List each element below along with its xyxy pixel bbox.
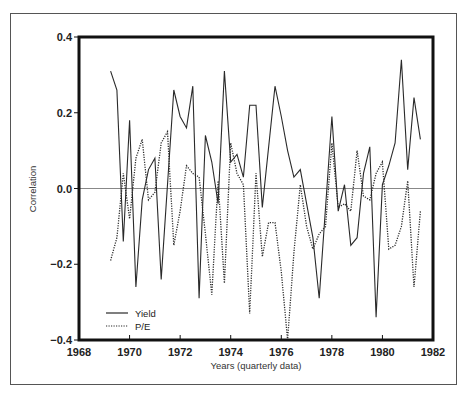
legend-label-pe: P/E (135, 321, 150, 332)
y-axis-title: Correlation (27, 166, 38, 212)
y-tick-label: 0.0 (57, 183, 72, 195)
x-tick-label: 1976 (269, 346, 293, 358)
x-tick-label: 1968 (67, 346, 91, 358)
y-tick-label: 0.4 (57, 31, 73, 43)
y-tick-label: 0.2 (57, 107, 72, 119)
legend-label-yield: Yield (135, 308, 156, 319)
x-tick-label: 1970 (117, 346, 141, 358)
correlation-line-chart: 0.40.20.0−0.2−0.4 1968197019721974197619… (0, 0, 470, 406)
legend: Yield P/E (106, 308, 156, 332)
x-axis-title: Years (quarterly data) (210, 360, 301, 371)
y-tick-label: −0.4 (50, 334, 73, 346)
x-axis-ticks: 19681970197219741976197819801982 (67, 335, 445, 358)
x-tick-label: 1972 (168, 346, 192, 358)
y-axis-ticks: 0.40.20.0−0.2−0.4 (50, 31, 79, 346)
x-tick-label: 1980 (370, 346, 394, 358)
x-tick-label: 1974 (218, 346, 243, 358)
series-pe-line (111, 132, 421, 340)
x-tick-label: 1978 (320, 346, 344, 358)
y-tick-label: −0.2 (50, 258, 72, 270)
series-group (111, 60, 421, 340)
x-tick-label: 1982 (421, 346, 445, 358)
